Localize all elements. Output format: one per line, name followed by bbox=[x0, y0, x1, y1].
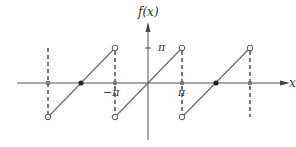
sawtooth-figure bbox=[0, 0, 296, 147]
tick-label-pi: π bbox=[178, 87, 185, 98]
y-axis-arrow-icon bbox=[146, 22, 151, 32]
y-tick-label-pi: π bbox=[158, 42, 165, 53]
y-axis-label: f(x) bbox=[138, 6, 159, 18]
tick-label-neg-pi: −π bbox=[103, 87, 119, 98]
x-axis-label: x bbox=[289, 77, 296, 89]
